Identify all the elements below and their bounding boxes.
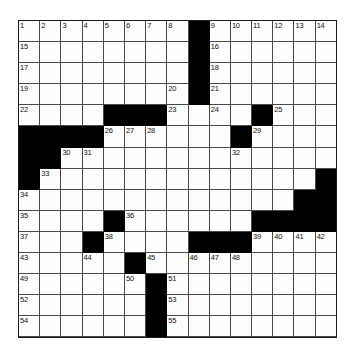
letter-cell[interactable] [210,148,231,169]
letter-cell[interactable]: 49 [19,274,40,295]
letter-cell[interactable] [294,148,315,169]
letter-cell[interactable] [273,42,294,63]
letter-cell[interactable] [316,63,337,84]
letter-cell[interactable]: 35 [19,211,40,232]
letter-cell[interactable]: 54 [19,316,40,337]
letter-cell[interactable] [167,190,188,211]
letter-cell[interactable] [61,211,82,232]
letter-cell[interactable] [189,126,210,147]
letter-cell[interactable]: 43 [19,253,40,274]
letter-cell[interactable]: 33 [40,169,61,190]
letter-cell[interactable] [61,190,82,211]
letter-cell[interactable]: 48 [231,253,252,274]
letter-cell[interactable] [167,42,188,63]
letter-cell[interactable] [294,274,315,295]
letter-cell[interactable] [231,84,252,105]
letter-cell[interactable] [316,253,337,274]
letter-cell[interactable] [146,190,167,211]
letter-cell[interactable] [125,63,146,84]
letter-cell[interactable] [40,232,61,253]
letter-cell[interactable] [294,105,315,126]
letter-cell[interactable] [83,42,104,63]
letter-cell[interactable] [125,316,146,337]
letter-cell[interactable] [273,148,294,169]
letter-cell[interactable] [189,105,210,126]
letter-cell[interactable] [210,126,231,147]
letter-cell[interactable] [167,169,188,190]
letter-cell[interactable] [273,63,294,84]
letter-cell[interactable] [125,84,146,105]
letter-cell[interactable]: 44 [83,253,104,274]
letter-cell[interactable]: 7 [146,21,167,42]
letter-cell[interactable] [61,84,82,105]
letter-cell[interactable] [167,232,188,253]
letter-cell[interactable] [167,148,188,169]
letter-cell[interactable] [252,316,273,337]
letter-cell[interactable] [252,253,273,274]
letter-cell[interactable] [104,274,125,295]
letter-cell[interactable] [61,105,82,126]
letter-cell[interactable] [294,295,315,316]
letter-cell[interactable] [61,63,82,84]
letter-cell[interactable]: 51 [167,274,188,295]
letter-cell[interactable]: 11 [252,21,273,42]
letter-cell[interactable] [104,295,125,316]
letter-cell[interactable]: 26 [104,126,125,147]
letter-cell[interactable] [189,274,210,295]
letter-cell[interactable] [40,211,61,232]
letter-cell[interactable] [125,169,146,190]
letter-cell[interactable] [231,316,252,337]
letter-cell[interactable] [294,42,315,63]
letter-cell[interactable]: 8 [167,21,188,42]
letter-cell[interactable]: 47 [210,253,231,274]
letter-cell[interactable] [40,63,61,84]
letter-cell[interactable] [125,295,146,316]
letter-cell[interactable] [104,148,125,169]
letter-cell[interactable]: 12 [273,21,294,42]
letter-cell[interactable] [146,42,167,63]
letter-cell[interactable] [210,169,231,190]
letter-cell[interactable] [210,274,231,295]
letter-cell[interactable] [273,169,294,190]
letter-cell[interactable] [83,105,104,126]
letter-cell[interactable] [125,42,146,63]
letter-cell[interactable] [61,253,82,274]
letter-cell[interactable] [231,42,252,63]
letter-cell[interactable] [294,126,315,147]
letter-cell[interactable]: 16 [210,42,231,63]
letter-cell[interactable]: 5 [104,21,125,42]
letter-cell[interactable]: 23 [167,105,188,126]
letter-cell[interactable] [61,42,82,63]
letter-cell[interactable] [231,169,252,190]
letter-cell[interactable] [273,316,294,337]
letter-cell[interactable] [294,316,315,337]
letter-cell[interactable] [61,232,82,253]
letter-cell[interactable] [252,295,273,316]
letter-cell[interactable] [252,84,273,105]
letter-cell[interactable] [316,148,337,169]
letter-cell[interactable] [83,274,104,295]
letter-cell[interactable] [252,63,273,84]
letter-cell[interactable] [40,295,61,316]
letter-cell[interactable] [316,126,337,147]
letter-cell[interactable]: 40 [273,232,294,253]
letter-cell[interactable]: 2 [40,21,61,42]
letter-cell[interactable]: 38 [104,232,125,253]
letter-cell[interactable] [273,274,294,295]
letter-cell[interactable]: 36 [125,211,146,232]
letter-cell[interactable] [316,295,337,316]
letter-cell[interactable] [189,295,210,316]
crossword-grid[interactable]: 1234567891011121314151617181920212223242… [18,20,337,337]
letter-cell[interactable] [273,253,294,274]
letter-cell[interactable]: 18 [210,63,231,84]
letter-cell[interactable] [316,274,337,295]
letter-cell[interactable] [252,190,273,211]
letter-cell[interactable]: 53 [167,295,188,316]
letter-cell[interactable] [104,42,125,63]
letter-cell[interactable] [146,211,167,232]
letter-cell[interactable] [294,63,315,84]
letter-cell[interactable]: 45 [146,253,167,274]
letter-cell[interactable] [104,316,125,337]
letter-cell[interactable] [125,190,146,211]
letter-cell[interactable]: 34 [19,190,40,211]
